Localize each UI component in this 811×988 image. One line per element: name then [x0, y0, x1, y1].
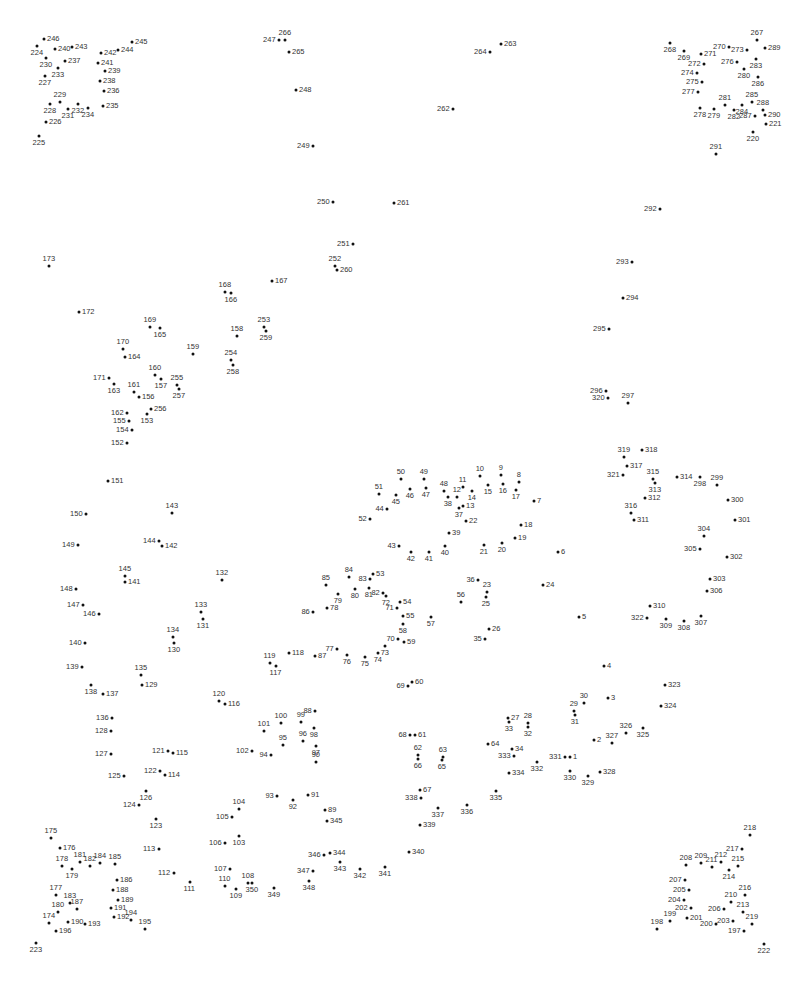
puzzle-dot — [703, 535, 706, 538]
puzzle-dot-label: 115 — [176, 749, 188, 757]
puzzle-dot-label: 87 — [318, 652, 326, 660]
puzzle-dot-label: 57 — [427, 620, 435, 628]
puzzle-dot — [741, 848, 744, 851]
puzzle-dot — [706, 590, 709, 593]
puzzle-dot-label: 172 — [82, 308, 95, 316]
puzzle-dot — [117, 49, 120, 52]
puzzle-dot — [276, 795, 279, 798]
puzzle-dot — [723, 908, 726, 911]
puzzle-dot — [736, 61, 739, 64]
puzzle-dot-label: 213 — [737, 901, 750, 909]
puzzle-dot — [720, 861, 723, 864]
puzzle-dot-label: 256 — [154, 405, 167, 413]
puzzle-dot-label: 114 — [168, 771, 180, 779]
puzzle-dot — [99, 862, 102, 865]
puzzle-dot — [630, 512, 633, 515]
puzzle-dot-label: 89 — [328, 806, 336, 814]
puzzle-dot-label: 103 — [233, 839, 246, 847]
puzzle-dot-label: 104 — [233, 798, 246, 806]
puzzle-dot — [85, 513, 88, 516]
puzzle-dot-label: 227 — [39, 79, 52, 87]
puzzle-dot — [690, 907, 693, 910]
puzzle-dot-label: 348 — [303, 884, 316, 892]
puzzle-dot — [236, 335, 239, 338]
puzzle-dot-label: 123 — [150, 822, 163, 830]
puzzle-dot-label: 224 — [31, 49, 44, 57]
puzzle-dot — [518, 481, 521, 484]
puzzle-dot — [452, 108, 455, 111]
puzzle-dot — [593, 739, 596, 742]
puzzle-dot — [112, 889, 115, 892]
puzzle-dot — [608, 328, 611, 331]
puzzle-dot — [64, 60, 67, 63]
puzzle-dot-label: 146 — [83, 610, 96, 618]
puzzle-dot — [61, 865, 64, 868]
puzzle-dot — [633, 519, 636, 522]
puzzle-dot — [117, 899, 120, 902]
puzzle-dot-label: 41 — [425, 555, 433, 563]
puzzle-dot-label: 144 — [143, 537, 156, 545]
puzzle-dot — [382, 592, 385, 595]
puzzle-dot-label: 328 — [603, 768, 616, 776]
puzzle-dot — [269, 662, 272, 665]
puzzle-dot-label: 313 — [649, 486, 662, 494]
puzzle-dot-label: 304 — [698, 525, 711, 533]
puzzle-dot — [656, 928, 659, 931]
puzzle-dot-label: 325 — [637, 731, 650, 739]
puzzle-dot-label: 63 — [439, 746, 447, 754]
puzzle-dot — [414, 734, 417, 737]
puzzle-dot — [631, 261, 634, 264]
puzzle-dot — [764, 47, 767, 50]
puzzle-dot — [533, 500, 536, 503]
puzzle-dot — [141, 684, 144, 687]
puzzle-dot — [751, 101, 754, 104]
puzzle-dot — [103, 90, 106, 93]
puzzle-dot — [133, 391, 136, 394]
puzzle-dot-label: 174 — [43, 912, 56, 920]
puzzle-dot — [489, 51, 492, 54]
puzzle-dot-label: 273 — [731, 46, 744, 54]
puzzle-dot-label: 177 — [50, 884, 63, 892]
puzzle-dot-label: 11 — [459, 476, 467, 484]
puzzle-dot-label: 318 — [645, 446, 658, 454]
puzzle-dot-label: 107 — [214, 865, 227, 873]
puzzle-dot-label: 117 — [270, 669, 282, 677]
puzzle-dot — [697, 91, 700, 94]
puzzle-dot — [625, 732, 628, 735]
puzzle-dot — [55, 894, 58, 897]
puzzle-dot-label: 204 — [668, 896, 681, 904]
puzzle-dot-label: 208 — [680, 854, 693, 862]
puzzle-dot-label: 349 — [268, 891, 281, 899]
puzzle-dot-label: 49 — [420, 468, 428, 476]
puzzle-dot-label: 127 — [95, 750, 108, 758]
puzzle-dot-label: 39 — [452, 529, 460, 537]
puzzle-dot-label: 180 — [52, 901, 65, 909]
puzzle-dot — [164, 774, 167, 777]
puzzle-dot-label: 47 — [422, 491, 430, 499]
puzzle-dot-label: 125 — [108, 772, 121, 780]
puzzle-dot — [221, 579, 224, 582]
puzzle-dot — [50, 837, 53, 840]
puzzle-dot — [486, 591, 489, 594]
puzzle-dot-label: 175 — [45, 827, 58, 835]
puzzle-dot-label: 283 — [750, 62, 763, 70]
puzzle-dot — [700, 53, 703, 56]
puzzle-dot — [564, 756, 567, 759]
puzzle-dot — [599, 771, 602, 774]
puzzle-dot-label: 223 — [30, 946, 43, 954]
puzzle-dot — [605, 390, 608, 393]
puzzle-dot-label: 322 — [631, 614, 644, 622]
puzzle-dot — [399, 601, 402, 604]
puzzle-dot-label: 230 — [40, 61, 53, 69]
puzzle-dot — [456, 496, 459, 499]
puzzle-dot-label: 91 — [311, 791, 319, 799]
puzzle-dot — [82, 604, 85, 607]
puzzle-dot — [231, 816, 234, 819]
puzzle-dot-label: 241 — [101, 59, 114, 67]
puzzle-dot-label: 222 — [758, 947, 771, 955]
puzzle-dot-label: 159 — [187, 343, 200, 351]
puzzle-dot — [288, 652, 291, 655]
puzzle-dot — [514, 537, 517, 540]
puzzle-dot — [732, 920, 735, 923]
puzzle-dot-label: 333 — [498, 752, 511, 760]
